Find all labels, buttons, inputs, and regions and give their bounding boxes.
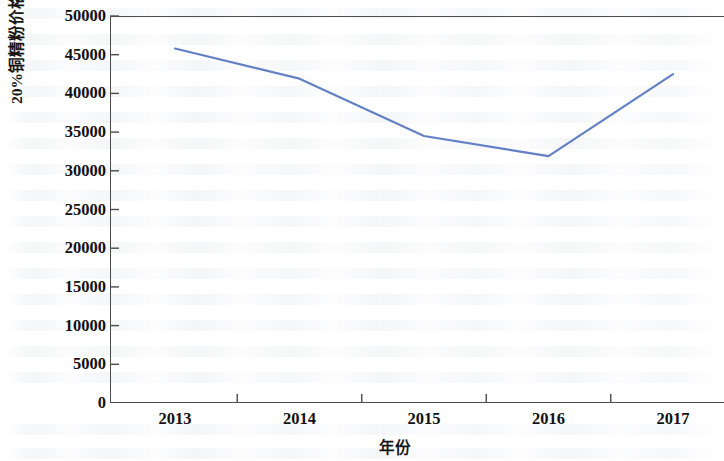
x-tick-label: 2014 [255,409,345,429]
x-axis-title: 年份 [0,435,724,457]
y-tick-label: 25000 [28,202,106,219]
x-tick-label: 2016 [504,409,594,429]
y-tick-label: 20000 [28,240,106,257]
y-axis-title-text: 20%铜精粉价格/元·t [8,0,25,104]
y-tick-label: 35000 [28,124,106,141]
y-tick-label: 40000 [28,85,106,102]
x-tick-label: 2017 [628,409,718,429]
price-line-series [175,49,673,157]
x-tick-label: 2015 [379,409,469,429]
x-tick-label: 2013 [130,409,220,429]
y-axis-tick-labels: 0500010000150002000025000300003500040000… [24,0,106,461]
y-tick-label: 15000 [28,279,106,296]
y-axis-ticks [110,16,119,364]
y-tick-label: 50000 [28,8,106,25]
y-tick-label: 45000 [28,47,106,64]
y-tick-label: 5000 [28,356,106,373]
y-axis-title: 20%铜精粉价格/元·t-1 [4,0,26,104]
y-tick-label: 10000 [28,318,106,335]
x-axis-ticks [237,394,611,403]
line-chart-figure: 20%铜精粉价格/元·t-1 0500010000150002000025000… [0,0,724,461]
y-tick-label: 30000 [28,163,106,180]
plot-canvas [110,16,724,403]
y-tick-label: 0 [28,395,106,412]
